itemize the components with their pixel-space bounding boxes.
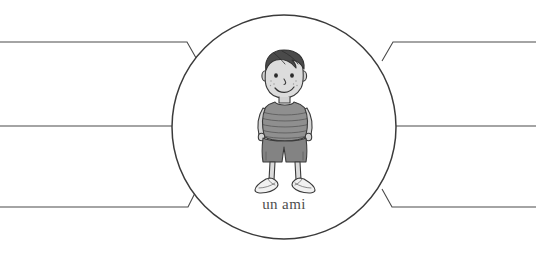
branch-line-bottom-right[interactable]: [382, 189, 536, 207]
eye-left-icon: [274, 73, 278, 77]
branch-line-top-right[interactable]: [382, 42, 536, 61]
leg-right: [295, 162, 301, 180]
word-web-worksheet: un ami: [0, 0, 536, 253]
eye-right-icon: [290, 73, 294, 77]
leg-left: [269, 162, 275, 180]
boy-illustration: [242, 48, 328, 196]
shorts-shape: [262, 138, 307, 162]
shirt-shape: [260, 102, 310, 141]
neck-shape: [279, 97, 290, 103]
branch-line-top-left[interactable]: [0, 42, 198, 61]
branch-line-bottom-left[interactable]: [0, 189, 197, 207]
shoe-right-icon: [292, 178, 315, 193]
boy-illustration-svg: [242, 48, 328, 196]
center-label: un ami: [172, 196, 396, 213]
shoe-left-icon: [255, 178, 278, 193]
